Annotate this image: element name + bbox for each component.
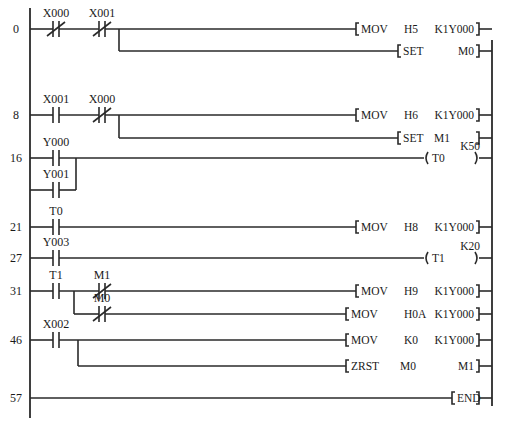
coil-paren-left bbox=[426, 152, 428, 164]
operand-1: H0A bbox=[404, 308, 427, 320]
contact-x001-no: X001 bbox=[43, 92, 70, 123]
coil-preset: K50 bbox=[460, 140, 480, 152]
instruction-op: MOV bbox=[361, 285, 389, 297]
rung-0: 0MOVH5K1Y000SETM0X000X001 bbox=[13, 6, 492, 57]
instruction-mov: MOVH5K1Y000 bbox=[356, 23, 492, 35]
instruction-op: MOV bbox=[361, 23, 389, 35]
contact-label: M1 bbox=[94, 268, 111, 282]
contact-x002-no: X002 bbox=[43, 317, 70, 348]
operand-2: M1 bbox=[458, 360, 474, 372]
operand-2: K1Y000 bbox=[434, 23, 474, 35]
contact-label: X000 bbox=[89, 92, 116, 106]
bracket-right bbox=[476, 360, 479, 372]
bracket-left bbox=[398, 132, 401, 144]
rung-16: 16T0K50Y000Y001 bbox=[10, 135, 492, 198]
instruction-op: MOV bbox=[361, 221, 389, 233]
instruction-op: MOV bbox=[361, 109, 389, 121]
step-number: 31 bbox=[10, 284, 22, 298]
instruction-mov: MOVK0K1Y000 bbox=[346, 334, 492, 346]
bracket-right bbox=[476, 23, 479, 35]
instruction-zrst: ZRSTM0M1 bbox=[346, 360, 492, 372]
instruction-op: END bbox=[457, 392, 481, 404]
bracket-left bbox=[398, 45, 401, 57]
step-number: 46 bbox=[10, 333, 22, 347]
step-number: 21 bbox=[10, 220, 22, 234]
operand-2: K1Y000 bbox=[434, 334, 474, 346]
instruction-mov: MOVH8K1Y000 bbox=[356, 221, 492, 233]
coil-operand: T1 bbox=[432, 252, 445, 264]
contact-label: Y003 bbox=[43, 235, 70, 249]
operand-2: K1Y000 bbox=[434, 308, 474, 320]
coil-t1: T1K20 bbox=[426, 240, 492, 264]
contact-label: X001 bbox=[43, 92, 70, 106]
contact-t0-no: T0 bbox=[49, 204, 62, 235]
contact-label: X001 bbox=[89, 6, 116, 20]
contact-label: T1 bbox=[49, 268, 62, 282]
contact-label: X000 bbox=[43, 6, 70, 20]
bracket-left bbox=[356, 109, 359, 121]
bracket-left bbox=[346, 308, 349, 320]
contact-label: Y000 bbox=[43, 135, 70, 149]
operand-2: K1Y000 bbox=[434, 221, 474, 233]
bracket-left bbox=[356, 221, 359, 233]
contact-y001-no: Y001 bbox=[43, 167, 70, 198]
contact-x000-nc: X000 bbox=[89, 92, 116, 123]
operand-2: K1Y000 bbox=[434, 109, 474, 121]
bracket-left bbox=[356, 23, 359, 35]
step-number: 16 bbox=[10, 151, 22, 165]
bracket-left bbox=[452, 392, 455, 404]
contact-t1-no: T1 bbox=[49, 268, 62, 299]
contact-y003-no: Y003 bbox=[43, 235, 70, 266]
coil-operand: T0 bbox=[432, 152, 445, 164]
contact-x001-nc: X001 bbox=[89, 6, 116, 37]
step-number: 57 bbox=[10, 391, 22, 405]
rung-57: 57END bbox=[10, 391, 492, 405]
bracket-right bbox=[476, 221, 479, 233]
operand-1: H6 bbox=[404, 109, 418, 121]
operand-2: K1Y000 bbox=[434, 285, 474, 297]
instruction-op: ZRST bbox=[351, 360, 379, 372]
instruction-mov: MOVH6K1Y000 bbox=[356, 109, 492, 121]
rung-31: 31MOVH9K1Y000MOVH0AK1Y000T1M1M0 bbox=[10, 268, 492, 322]
rung-46: 46MOVK0K1Y000ZRSTM0M1X002 bbox=[10, 317, 492, 372]
contact-x000-nc: X000 bbox=[43, 6, 70, 37]
bracket-right bbox=[476, 45, 479, 57]
bracket-left bbox=[356, 285, 359, 297]
bracket-left bbox=[346, 360, 349, 372]
rung-21: 21MOVH8K1Y000T0 bbox=[10, 204, 492, 235]
step-number: 27 bbox=[10, 251, 22, 265]
contact-label: Y001 bbox=[43, 167, 70, 181]
bracket-right bbox=[476, 109, 479, 121]
instruction-end: END bbox=[452, 392, 492, 404]
contact-label: X002 bbox=[43, 317, 70, 331]
rung-8: 8MOVH6K1Y000SETM1X001X000 bbox=[13, 92, 492, 144]
contact-y000-no: Y000 bbox=[43, 135, 70, 166]
bracket-right bbox=[476, 285, 479, 297]
step-number: 0 bbox=[13, 22, 19, 36]
power-rails bbox=[30, 8, 492, 418]
instruction-op: SET bbox=[403, 45, 423, 57]
operand-1: H8 bbox=[404, 221, 418, 233]
operand-1: H5 bbox=[404, 23, 418, 35]
instruction-op: MOV bbox=[351, 308, 379, 320]
instruction-set: SETM0 bbox=[398, 45, 492, 57]
instruction-mov: MOVH9K1Y000 bbox=[356, 285, 492, 297]
operand-2: M0 bbox=[458, 45, 474, 57]
operand-1: K0 bbox=[404, 334, 418, 346]
operand-1: M1 bbox=[434, 132, 450, 144]
operand-1: H9 bbox=[404, 285, 418, 297]
bracket-right bbox=[476, 334, 479, 346]
rung-27: 27T1K20Y003 bbox=[10, 235, 492, 266]
instruction-op: SET bbox=[403, 132, 423, 144]
coil-paren-right bbox=[475, 152, 477, 164]
coil-preset: K20 bbox=[460, 240, 480, 252]
coil-paren-left bbox=[426, 252, 428, 264]
contact-label: M0 bbox=[94, 291, 111, 305]
rungs: 0MOVH5K1Y000SETM0X000X0018MOVH6K1Y000SET… bbox=[10, 6, 492, 405]
instruction-op: MOV bbox=[351, 334, 379, 346]
contact-m0-nc: M0 bbox=[93, 291, 111, 322]
operand-1: M0 bbox=[400, 360, 416, 372]
bracket-left bbox=[346, 334, 349, 346]
instruction-mov: MOVH0AK1Y000 bbox=[346, 308, 492, 320]
coil-paren-right bbox=[475, 252, 477, 264]
